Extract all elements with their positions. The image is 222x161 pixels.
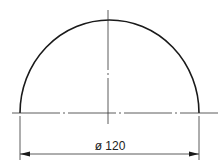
arrowhead-right	[189, 152, 199, 157]
diameter-dimension-label: ø 120	[95, 139, 126, 153]
arrowhead-left	[20, 152, 30, 157]
technical-drawing: ø 120	[0, 0, 222, 161]
semicircle-arc	[20, 20, 199, 113]
